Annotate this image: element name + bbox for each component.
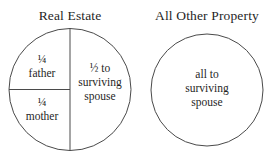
segment-label-surviving-spouse-other-property: all to surviving spouse <box>166 67 248 109</box>
segment-share-mother: ¼ <box>16 95 68 109</box>
segment-share-spouse-real-estate-line2: surviving <box>71 75 129 89</box>
inheritance-distribution-diagram: Real Estate All Other Property ¼ father … <box>0 0 275 157</box>
segment-share-spouse-other-property-line3: spouse <box>166 95 248 109</box>
segment-share-father: ¼ <box>16 52 68 66</box>
segment-label-father: ¼ father <box>16 52 68 80</box>
segment-recipient-mother: mother <box>16 109 68 123</box>
segment-share-spouse-other-property-line2: surviving <box>166 81 248 95</box>
segment-share-spouse-other-property-line1: all to <box>166 67 248 81</box>
segment-label-mother: ¼ mother <box>16 95 68 123</box>
segment-share-spouse-real-estate-line1: ½ to <box>71 61 129 75</box>
segment-recipient-father: father <box>16 66 68 80</box>
segment-label-surviving-spouse-real-estate: ½ to surviving spouse <box>71 61 129 103</box>
segment-share-spouse-real-estate-line3: spouse <box>71 89 129 103</box>
